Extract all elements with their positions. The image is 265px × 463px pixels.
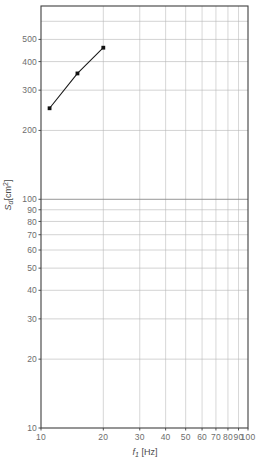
- y-tick-label: 60: [6, 246, 37, 255]
- log-log-plot: [0, 0, 265, 463]
- x-tick-label: 10: [36, 433, 46, 442]
- x-axis-subscript: 1: [135, 451, 139, 458]
- x-axis-unit: [Hz]: [141, 447, 157, 457]
- x-tick-label: 20: [98, 433, 108, 442]
- y-axis-symbol: S: [3, 204, 13, 210]
- y-axis-subscript: d: [7, 201, 14, 205]
- y-tick-label: 400: [6, 57, 37, 66]
- x-tick-label: 80: [223, 433, 233, 442]
- y-tick-label: 20: [6, 355, 37, 364]
- y-tick-label: 80: [6, 217, 37, 226]
- y-axis-unit-exponent: 2: [2, 182, 9, 186]
- data-line-0: [50, 48, 104, 109]
- y-tick-label: 70: [6, 230, 37, 239]
- x-tick-label: 30: [135, 433, 145, 442]
- y-tick-label: 50: [6, 264, 37, 273]
- y-tick-label: 30: [6, 315, 37, 324]
- y-tick-label: 500: [6, 35, 37, 44]
- x-tick-label: 50: [181, 433, 191, 442]
- y-tick-label: 300: [6, 86, 37, 95]
- x-tick-label: 70: [211, 433, 221, 442]
- x-axis-title: f1 [Hz]: [133, 447, 158, 458]
- minor-gridlines: [41, 6, 248, 428]
- chart-container: 102030405060708090100200300400500 102030…: [0, 0, 265, 463]
- y-tick-label: 40: [6, 286, 37, 295]
- y-axis-unit-close: ]: [3, 180, 13, 183]
- data-point-marker: [101, 46, 105, 50]
- plot-frame: [41, 6, 248, 428]
- data-point-marker: [76, 72, 80, 76]
- x-tick-label: 40: [161, 433, 171, 442]
- x-tick-label: 60: [197, 433, 207, 442]
- y-axis-unit-open: [cm: [3, 186, 13, 201]
- x-tick-label: 100: [241, 433, 256, 442]
- y-tick-label: 10: [6, 424, 37, 433]
- y-tick-label: 200: [6, 126, 37, 135]
- data-point-marker: [48, 106, 52, 110]
- data-series-layer: [48, 46, 106, 110]
- y-axis-title: Sd[cm2]: [2, 180, 14, 211]
